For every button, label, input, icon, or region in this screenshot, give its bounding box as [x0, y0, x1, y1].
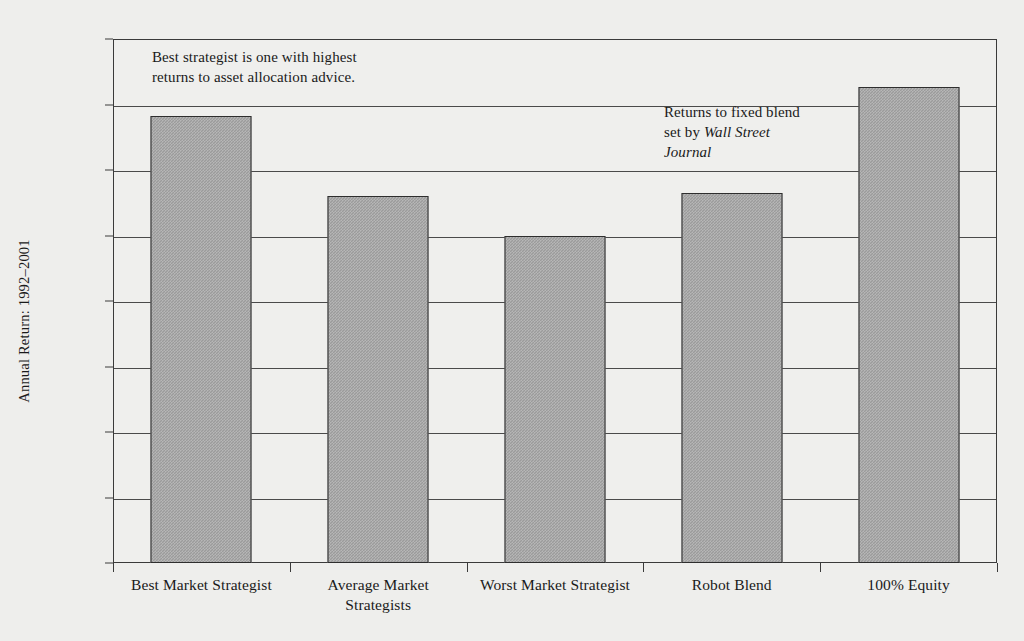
y-tick-mark-2	[105, 497, 113, 498]
x-category-label-100-percent-equity: 100% Equity	[820, 575, 997, 595]
y-tick-mark-12	[105, 170, 113, 171]
x-category-label-line-1: Best Market Strategist	[113, 575, 290, 595]
x-category-label-worst-market-strategist: Worst Market Strategist	[467, 575, 644, 595]
y-tick-mark-6	[105, 366, 113, 367]
bar-best-market-strategist[interactable]	[151, 116, 252, 563]
x-tick-mark-5	[997, 563, 998, 572]
x-category-label-line-1: 100% Equity	[820, 575, 997, 595]
x-category-label-line-1: Robot Blend	[643, 575, 820, 595]
annotation-wsj-line-2-prefix: set by	[664, 124, 704, 140]
x-category-label-line-1: Worst Market Strategist	[467, 575, 644, 595]
y-tick-mark-16	[105, 39, 113, 40]
bar-average-market-strategists[interactable]	[328, 196, 429, 563]
annotation-wsj-publication-name: Wall Street	[704, 124, 770, 140]
x-tick-mark-4	[820, 563, 821, 572]
y-tick-mark-14	[105, 104, 113, 105]
y-axis-title: Annual Return: 1992–2001	[16, 239, 33, 402]
chart-page: Annual Return: 1992–2001 0.00% 2.00% 4.0…	[0, 0, 1024, 641]
x-category-label-line-2: Strategists	[290, 595, 467, 615]
annotation-best-strategist: Best strategist is one with highest retu…	[152, 48, 482, 88]
annotation-wsj-line-3: Journal	[664, 143, 879, 163]
annotation-best-strategist-line-2: returns to asset allocation advice.	[152, 68, 482, 88]
bar-slot-worst-market-strategist	[467, 39, 644, 563]
x-tick-mark-0	[113, 563, 114, 572]
y-tick-mark-8	[105, 301, 113, 302]
x-tick-mark-3	[643, 563, 644, 572]
annotation-best-strategist-line-1: Best strategist is one with highest	[152, 48, 482, 68]
y-tick-mark-0	[105, 563, 113, 564]
x-tick-mark-1	[290, 563, 291, 572]
x-category-label-average-market-strategists: Average Market Strategists	[290, 575, 467, 615]
annotation-wall-street-journal: Returns to fixed blend set by Wall Stree…	[664, 103, 879, 162]
y-tick-mark-4	[105, 432, 113, 433]
bar-slot-average-market-strategists	[290, 39, 467, 563]
x-tick-mark-2	[467, 563, 468, 572]
x-category-label-robot-blend: Robot Blend	[643, 575, 820, 595]
bar-slot-best-market-strategist	[113, 39, 290, 563]
annotation-wsj-line-2: set by Wall Street	[664, 123, 879, 143]
x-category-label-best-market-strategist: Best Market Strategist	[113, 575, 290, 595]
annotation-wsj-line-1: Returns to fixed blend	[664, 103, 879, 123]
bar-worst-market-strategist[interactable]	[504, 236, 605, 564]
y-tick-mark-10	[105, 235, 113, 236]
x-category-label-line-1: Average Market	[290, 575, 467, 595]
bar-robot-blend[interactable]	[681, 193, 782, 563]
